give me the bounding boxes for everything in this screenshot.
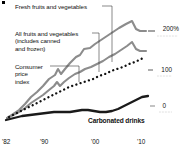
annotation-fresh-fruits-vegetables: Fresh fruits and vegetables bbox=[15, 3, 87, 10]
chart-container: Fresh fruits and vegetables All fruits a… bbox=[0, 0, 182, 159]
xtick-label-2000: '00 bbox=[91, 138, 99, 145]
annotation-all-line1: All fruits and vegetables bbox=[15, 30, 89, 37]
annotation-all-line3: and frozen) bbox=[15, 45, 89, 52]
ytick-label-0: 0 bbox=[162, 102, 166, 109]
annotation-consumer-price-index: Consumer price index bbox=[15, 63, 51, 85]
annotation-cpi-line3: index bbox=[15, 78, 51, 85]
annotation-cpi-line2: price bbox=[15, 70, 51, 77]
ytick-label-100: 100 bbox=[161, 66, 172, 73]
xtick-label-1982: '82 bbox=[2, 138, 10, 145]
annotation-all-fruits-vegetables: All fruits and vegetables (includes cann… bbox=[15, 30, 89, 52]
annotation-cpi-line1: Consumer bbox=[15, 63, 51, 70]
xtick-label-1990: '90 bbox=[40, 138, 48, 145]
ytick-label-200: 200% bbox=[163, 25, 179, 32]
annotation-all-line2: (includes canned bbox=[15, 37, 89, 44]
xtick-label-2010: '10 bbox=[137, 138, 145, 145]
annotation-carbonated-drinks: Carbonated drinks bbox=[88, 117, 145, 124]
